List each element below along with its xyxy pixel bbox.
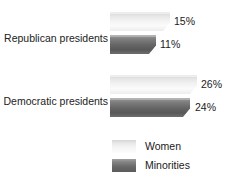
bar-fill-democratic-women — [110, 75, 197, 94]
bar-value-democratic-minorities: 24% — [195, 102, 216, 113]
bar-republican-women — [110, 12, 170, 31]
bar-republican-minorities — [110, 35, 156, 54]
bar-fill-democratic-minorities — [110, 98, 190, 117]
bar-democratic-women — [110, 75, 197, 94]
bar-democratic-minorities — [110, 98, 190, 117]
legend-label-women: Women — [145, 141, 181, 152]
bar-fill-republican-minorities — [110, 35, 156, 54]
chart-legend: Women Minorities — [112, 139, 190, 177]
legend-item-women: Women — [112, 139, 190, 154]
category-label-democratic-presidents: Democratic presidents — [4, 96, 108, 107]
legend-item-minorities: Minorities — [112, 158, 190, 173]
bar-value-republican-minorities: 11% — [160, 39, 180, 50]
bar-chart: Republican presidents Democratic preside… — [0, 0, 232, 180]
women-swatch-icon — [112, 140, 136, 153]
category-label-republican-presidents: Republican presidents — [4, 33, 108, 44]
minorities-swatch-icon — [112, 159, 136, 172]
bar-value-democratic-women: 26% — [201, 79, 222, 90]
bar-fill-republican-women — [110, 12, 170, 31]
legend-label-minorities: Minorities — [145, 160, 190, 171]
bar-value-republican-women: 15% — [174, 16, 195, 27]
